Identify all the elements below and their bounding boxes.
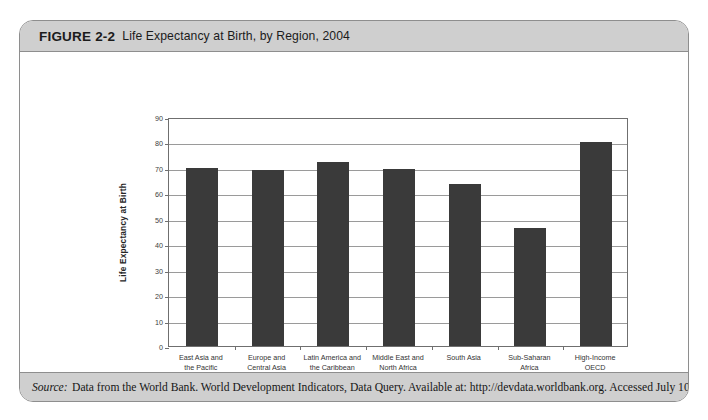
y-axis-tick-label: 60 bbox=[155, 190, 163, 199]
y-axis-tick-label: 10 bbox=[155, 317, 163, 326]
y-axis-tick-label: 0 bbox=[159, 343, 163, 352]
y-axis-tick bbox=[165, 348, 169, 349]
bar bbox=[514, 228, 546, 346]
y-axis-tick-label: 90 bbox=[155, 114, 163, 123]
figure-header: FIGURE 2-2 Life Expectancy at Birth, by … bbox=[20, 21, 688, 52]
figure-number-label: FIGURE 2-2 bbox=[39, 29, 115, 44]
figure-card: FIGURE 2-2 Life Expectancy at Birth, by … bbox=[19, 20, 689, 402]
x-axis-tick bbox=[366, 346, 367, 350]
x-axis-tick bbox=[300, 346, 301, 350]
x-axis-tick bbox=[432, 346, 433, 350]
y-axis-tick-label: 40 bbox=[155, 241, 163, 250]
bar bbox=[383, 169, 415, 346]
y-axis-tick-labels: 0102030405060708090 bbox=[138, 118, 163, 347]
x-axis-tick-label: Europe andCentral Asia bbox=[234, 353, 300, 372]
x-axis-tick-label: High-IncomeOECD bbox=[562, 353, 628, 372]
x-axis-tick-label: Sub-SaharanAfrica bbox=[497, 353, 563, 372]
bar bbox=[449, 184, 481, 346]
x-axis-tick bbox=[235, 346, 236, 350]
x-axis-tick-label: South Asia bbox=[431, 353, 497, 363]
y-axis-tick-label: 80 bbox=[155, 139, 163, 148]
figure-title: Life Expectancy at Birth, by Region, 200… bbox=[122, 29, 350, 43]
y-axis-tick-label: 50 bbox=[155, 215, 163, 224]
bars-layer bbox=[169, 119, 627, 346]
x-axis-tick-label: East Asia andthe Pacific bbox=[168, 353, 234, 372]
chart-area: Life Expectancy at Birth 010203040506070… bbox=[20, 52, 688, 372]
y-axis-tick-label: 70 bbox=[155, 164, 163, 173]
y-axis-tick-label: 20 bbox=[155, 292, 163, 301]
bar bbox=[317, 162, 349, 346]
source-label: Source: bbox=[32, 381, 68, 394]
bar bbox=[580, 142, 612, 346]
source-note: Data from the World Bank. World Developm… bbox=[72, 381, 689, 394]
x-axis-tick bbox=[563, 346, 564, 350]
y-axis-title: Life Expectancy at Birth bbox=[116, 118, 130, 347]
bar bbox=[186, 168, 218, 346]
plot-frame bbox=[168, 118, 628, 347]
x-axis-tick bbox=[498, 346, 499, 350]
x-axis-tick-label: Middle East andNorth Africa bbox=[365, 353, 431, 372]
x-axis-tick-label: Latin America andthe Caribbean bbox=[299, 353, 365, 372]
y-axis-tick-label: 30 bbox=[155, 266, 163, 275]
figure-footer: Source: Data from the World Bank. World … bbox=[20, 372, 688, 401]
bar bbox=[252, 170, 284, 346]
